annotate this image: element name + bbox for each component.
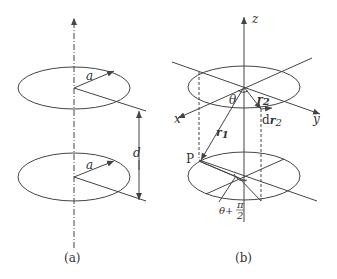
y-axis-label: y	[312, 112, 320, 126]
radius-label-bottom: a	[86, 158, 93, 172]
r2-label: r2	[257, 93, 270, 107]
figure-b	[172, 17, 320, 222]
top-radius-arrow	[74, 71, 114, 88]
theta-label: θ	[229, 93, 237, 107]
separation-label: d	[133, 146, 141, 160]
r1-label: r1	[216, 126, 229, 140]
x-axis-label: x	[174, 112, 181, 126]
figure-a	[18, 18, 146, 248]
point-p-label: P	[186, 152, 194, 166]
angle-offset-label: θ+	[219, 205, 233, 216]
angle-pointer	[219, 176, 236, 202]
z-axis-label: z	[251, 12, 259, 26]
radius-label-top: a	[86, 69, 93, 83]
pi-numerator: π	[236, 199, 244, 210]
bottom-chord-3	[199, 161, 246, 181]
caption-b: (b)	[235, 251, 252, 265]
two-coaxial-loops-diagram: a a d (a) z x y θ r2 dr2 r1	[0, 0, 337, 279]
bottom-chord-2	[239, 178, 261, 201]
top-extension-line	[74, 88, 146, 111]
bottom-radius-arrow	[74, 161, 114, 177]
caption-a: (a)	[64, 251, 81, 265]
dr2-vector	[261, 108, 272, 109]
bottom-extension-line	[74, 177, 146, 201]
pi-denominator: 2	[236, 210, 243, 221]
dr2-label: dr2	[262, 113, 282, 128]
y-axis	[172, 62, 320, 114]
